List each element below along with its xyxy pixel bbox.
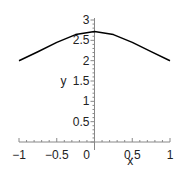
x-axis-label: x	[127, 154, 133, 168]
x-tick-label: −1	[12, 148, 26, 162]
axes	[19, 18, 170, 150]
x-tick-label: −0.5	[45, 148, 69, 162]
x-tick-label: 1	[167, 148, 174, 162]
y-tick-label: 2	[83, 54, 90, 68]
y-axis-label: y	[61, 74, 67, 88]
y-tick-label: 3	[83, 13, 90, 27]
line-chart: −1−0.500.510.511.522.53yx	[0, 0, 179, 170]
y-tick-label: 0.5	[73, 115, 90, 129]
x-tick-label: 0	[83, 148, 90, 162]
y-tick-label: 1.5	[73, 74, 90, 88]
y-tick-label: 1	[83, 94, 90, 108]
y-tick-label: 2.5	[73, 33, 90, 47]
